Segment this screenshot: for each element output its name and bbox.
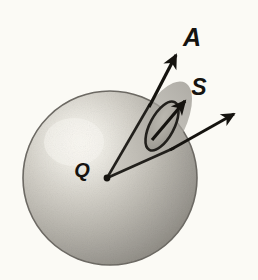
vector-a-label: A bbox=[182, 23, 201, 51]
point-q-vertex bbox=[104, 175, 111, 182]
vector-s-label: S bbox=[191, 74, 207, 100]
point-q-label: Q bbox=[74, 159, 90, 181]
solid-angle-figure: A S Q bbox=[0, 0, 258, 280]
figure-canvas: A S Q bbox=[0, 0, 258, 280]
